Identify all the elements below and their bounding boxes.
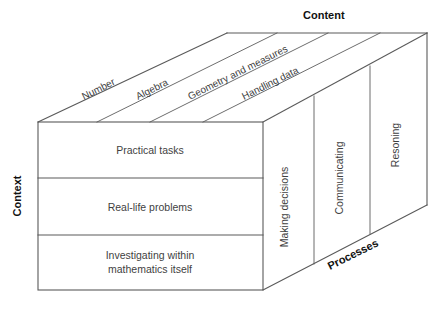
front-row-label-investigating-line2: mathematics itself	[108, 263, 192, 275]
process-label-communicating: Communicating	[333, 141, 345, 214]
axis-title-content: Content	[303, 9, 345, 21]
process-label-resoning: Resoning	[389, 123, 401, 168]
front-row-label-investigating-line1: Investigating within	[106, 249, 195, 261]
diagram-root: Number Algebra Geometry and measures Han…	[0, 0, 448, 311]
front-row-label-real-life-problems: Real-life problems	[108, 201, 193, 213]
process-label-making-decisions: Making decisions	[278, 167, 290, 248]
front-row-label-practical-tasks: Practical tasks	[116, 144, 184, 156]
axis-title-context: Context	[11, 175, 23, 216]
cube-diagram-svg: Number Algebra Geometry and measures Han…	[0, 0, 448, 311]
